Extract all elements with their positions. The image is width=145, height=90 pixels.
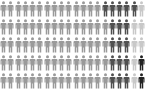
person-icon bbox=[138, 18, 145, 36]
person-icon bbox=[65, 72, 72, 90]
person-icon bbox=[80, 72, 87, 90]
person-icon bbox=[80, 18, 87, 36]
person-icon bbox=[58, 36, 65, 54]
person-icon bbox=[73, 54, 80, 72]
person-icon bbox=[36, 54, 43, 72]
person-icon bbox=[36, 36, 43, 54]
person-icon bbox=[15, 36, 22, 54]
person-icon bbox=[0, 72, 7, 90]
person-icon bbox=[22, 54, 29, 72]
person-icon bbox=[51, 18, 58, 36]
person-icon bbox=[29, 54, 36, 72]
person-icon bbox=[44, 72, 51, 90]
person-icon bbox=[29, 36, 36, 54]
person-icon bbox=[22, 0, 29, 18]
person-icon bbox=[29, 72, 36, 90]
person-icon bbox=[73, 72, 80, 90]
person-icon bbox=[116, 72, 123, 90]
person-icon bbox=[131, 36, 138, 54]
person-icon bbox=[123, 36, 130, 54]
person-icon bbox=[102, 36, 109, 54]
person-icon bbox=[58, 72, 65, 90]
person-icon bbox=[102, 18, 109, 36]
person-icon bbox=[94, 54, 101, 72]
person-icon bbox=[36, 72, 43, 90]
person-icon bbox=[65, 18, 72, 36]
person-icon bbox=[15, 72, 22, 90]
person-icon bbox=[44, 54, 51, 72]
person-icon bbox=[102, 54, 109, 72]
person-icon bbox=[109, 18, 116, 36]
person-icon bbox=[94, 18, 101, 36]
person-icon bbox=[80, 36, 87, 54]
person-icon bbox=[51, 72, 58, 90]
person-icon bbox=[138, 0, 145, 18]
person-icon bbox=[131, 0, 138, 18]
person-icon bbox=[123, 54, 130, 72]
person-icon bbox=[73, 36, 80, 54]
person-icon bbox=[131, 54, 138, 72]
person-icon bbox=[73, 18, 80, 36]
person-icon bbox=[22, 18, 29, 36]
person-icon bbox=[0, 0, 7, 18]
person-icon bbox=[65, 36, 72, 54]
person-icon bbox=[51, 54, 58, 72]
person-icon bbox=[0, 18, 7, 36]
person-icon bbox=[7, 72, 14, 90]
person-icon bbox=[102, 72, 109, 90]
person-icon bbox=[44, 18, 51, 36]
person-icon bbox=[116, 54, 123, 72]
person-icon bbox=[0, 36, 7, 54]
person-icon bbox=[138, 72, 145, 90]
person-icon bbox=[51, 0, 58, 18]
person-icon bbox=[94, 72, 101, 90]
person-icon bbox=[123, 72, 130, 90]
person-icon bbox=[87, 0, 94, 18]
person-icon bbox=[15, 54, 22, 72]
person-icon bbox=[109, 0, 116, 18]
person-icon bbox=[29, 18, 36, 36]
person-icon bbox=[87, 72, 94, 90]
person-icon bbox=[138, 54, 145, 72]
person-icon bbox=[22, 36, 29, 54]
person-icon bbox=[36, 18, 43, 36]
person-icon bbox=[80, 0, 87, 18]
person-icon bbox=[22, 72, 29, 90]
person-icon bbox=[102, 0, 109, 18]
person-icon bbox=[131, 72, 138, 90]
person-icon bbox=[80, 54, 87, 72]
person-icon bbox=[29, 0, 36, 18]
person-icon bbox=[58, 18, 65, 36]
pictogram-chart bbox=[0, 0, 145, 90]
person-icon bbox=[109, 54, 116, 72]
person-icon bbox=[0, 54, 7, 72]
person-icon bbox=[7, 36, 14, 54]
person-icon bbox=[138, 36, 145, 54]
person-icon bbox=[58, 0, 65, 18]
person-icon bbox=[7, 54, 14, 72]
person-icon bbox=[36, 0, 43, 18]
person-icon bbox=[123, 18, 130, 36]
person-icon bbox=[73, 0, 80, 18]
person-icon bbox=[94, 0, 101, 18]
person-icon bbox=[51, 36, 58, 54]
person-icon bbox=[87, 36, 94, 54]
person-icon bbox=[65, 0, 72, 18]
person-icon bbox=[87, 54, 94, 72]
person-icon bbox=[65, 54, 72, 72]
person-icon bbox=[116, 36, 123, 54]
person-icon bbox=[116, 18, 123, 36]
person-icon bbox=[116, 0, 123, 18]
person-icon bbox=[7, 18, 14, 36]
person-icon bbox=[123, 0, 130, 18]
person-icon bbox=[131, 18, 138, 36]
person-icon bbox=[109, 36, 116, 54]
person-icon bbox=[58, 54, 65, 72]
person-icon bbox=[44, 36, 51, 54]
person-icon bbox=[44, 0, 51, 18]
person-icon bbox=[15, 0, 22, 18]
person-icon bbox=[87, 18, 94, 36]
person-icon bbox=[7, 0, 14, 18]
person-icon bbox=[15, 18, 22, 36]
person-icon bbox=[109, 72, 116, 90]
